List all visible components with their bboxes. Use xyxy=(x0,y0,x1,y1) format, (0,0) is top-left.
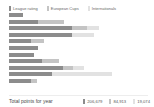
bar-segment-european-cups[interactable] xyxy=(38,20,64,24)
legend-label-league-rating: League rating xyxy=(13,6,38,11)
bar-segment-league-rating[interactable] xyxy=(9,20,38,24)
total-value-european-cups: 84,913 xyxy=(113,99,126,104)
total-item-internationals: 19,074 xyxy=(133,99,150,104)
bar-segment-internationals[interactable] xyxy=(87,26,99,30)
bar-segment-internationals[interactable] xyxy=(52,72,112,76)
chart-legend: League rating European Cups Internationa… xyxy=(0,0,154,10)
legend-label-internationals: Internationals xyxy=(92,6,116,11)
legend-label-european-cups: European Cups xyxy=(51,6,79,11)
bar-segment-league-rating[interactable] xyxy=(9,46,38,50)
bar-segment-european-cups[interactable] xyxy=(31,39,44,43)
bars-container xyxy=(9,13,149,83)
bar-segment-european-cups[interactable] xyxy=(72,26,87,30)
bar-segment-league-rating[interactable] xyxy=(9,26,72,30)
total-value-internationals: 19,074 xyxy=(137,99,150,104)
legend-swatch-european-cups xyxy=(47,6,49,11)
total-swatch-internationals xyxy=(133,99,135,104)
bar-segment-league-rating[interactable] xyxy=(9,79,31,83)
footer-totals: 206,679 84,913 19,074 xyxy=(76,99,150,104)
legend-item-internationals[interactable]: Internationals xyxy=(88,6,116,11)
bar-row[interactable] xyxy=(9,79,149,83)
legend-swatch-league-rating xyxy=(9,6,11,11)
bar-segment-league-rating[interactable] xyxy=(9,53,34,57)
footer-total-label: Total points for year xyxy=(9,98,53,104)
bar-row[interactable] xyxy=(9,66,149,70)
bar-segment-league-rating[interactable] xyxy=(9,33,72,37)
total-item-league-rating: 206,679 xyxy=(83,99,102,104)
bar-segment-league-rating[interactable] xyxy=(9,13,23,17)
total-item-european-cups: 84,913 xyxy=(109,99,126,104)
bar-row[interactable] xyxy=(9,46,149,50)
bar-segment-league-rating[interactable] xyxy=(9,39,31,43)
bar-segment-league-rating[interactable] xyxy=(9,59,42,63)
legend-item-league-rating[interactable]: League rating xyxy=(9,6,38,11)
bar-segment-european-cups[interactable] xyxy=(31,79,37,83)
legend-item-european-cups[interactable]: European Cups xyxy=(47,6,79,11)
chart-footer: Total points for year 206,679 84,913 19,… xyxy=(0,98,154,104)
bar-row[interactable] xyxy=(9,20,149,24)
bar-row[interactable] xyxy=(9,59,149,63)
bar-segment-european-cups[interactable] xyxy=(42,59,59,63)
footer-divider xyxy=(9,95,148,96)
bar-row[interactable] xyxy=(9,39,149,43)
total-swatch-european-cups xyxy=(109,99,111,104)
bar-row[interactable] xyxy=(9,72,149,76)
total-swatch-league-rating xyxy=(83,99,85,104)
legend-swatch-internationals xyxy=(88,6,90,11)
bar-row[interactable] xyxy=(9,13,149,17)
bar-segment-internationals[interactable] xyxy=(72,33,94,37)
bar-segment-internationals[interactable] xyxy=(73,66,84,70)
bar-segment-league-rating[interactable] xyxy=(9,72,52,76)
bar-row[interactable] xyxy=(9,26,149,30)
bar-segment-european-cups[interactable] xyxy=(63,66,73,70)
bar-segment-league-rating[interactable] xyxy=(9,66,63,70)
total-value-league-rating: 206,679 xyxy=(87,99,102,104)
bar-row[interactable] xyxy=(9,33,149,37)
stacked-bar-chart-panel: League rating European Cups Internationa… xyxy=(0,0,154,107)
bar-row[interactable] xyxy=(9,53,149,57)
